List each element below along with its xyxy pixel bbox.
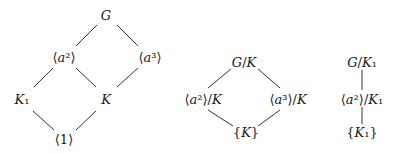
node-G-mod-K: G/K xyxy=(232,56,257,69)
edge-a3-K xyxy=(117,68,138,87)
edge-G-a3 xyxy=(117,25,138,46)
node-trivial: ⟨1⟩ xyxy=(55,133,73,146)
edge-a2K-KK xyxy=(208,110,233,126)
edge-GK-a2K xyxy=(208,69,231,88)
node-a-squared: ⟨a²⟩ xyxy=(52,51,75,64)
node-K: K xyxy=(101,93,111,106)
node-a2-mod-K1: ⟨a²⟩/K₁ xyxy=(341,93,383,106)
node-a3-mod-K: ⟨a³⟩/K xyxy=(269,93,306,106)
node-a-cubed: ⟨a³⟩ xyxy=(138,51,161,64)
edge-a2-K1 xyxy=(34,68,53,87)
edge-a2-K xyxy=(76,68,96,87)
node-G: G xyxy=(101,9,111,22)
edge-K-one xyxy=(76,111,96,130)
edge-GK-a3K xyxy=(258,69,280,88)
node-G-mod-K1: G/K₁ xyxy=(347,56,377,69)
node-K1: K₁ xyxy=(15,93,30,106)
node-K1-coset: {K₁} xyxy=(346,126,377,139)
edge-a3K-KK xyxy=(258,110,280,126)
edge-K1-one xyxy=(33,111,54,130)
node-a2-mod-K: ⟨a²⟩/K xyxy=(184,93,221,106)
node-K-coset: {K} xyxy=(233,126,259,139)
edge-G-a2 xyxy=(76,25,97,46)
